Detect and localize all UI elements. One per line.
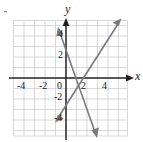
ascending-line (55, 19, 122, 123)
x-tick-2: 2 (81, 80, 86, 91)
scan-speck (4, 11, 7, 12)
x-axis (9, 75, 134, 82)
x-tick-neg2: -2 (39, 80, 47, 91)
y-tick-4: 4 (58, 28, 63, 39)
y-tick-neg4: -4 (54, 112, 62, 123)
y-tick-neg2: -2 (54, 91, 62, 102)
x-axis-label: x (135, 69, 140, 84)
y-axis-label: y (65, 2, 70, 17)
origin-label: 0 (57, 80, 62, 91)
x-tick-4: 4 (102, 80, 107, 91)
x-tick-neg4: -4 (17, 80, 25, 91)
coordinate-plane-svg (0, 0, 143, 142)
descending-line (56, 27, 99, 138)
graph-figure: y x -4 -2 2 4 0 4 2 -2 -4 (0, 0, 143, 142)
y-tick-2: 2 (58, 49, 63, 60)
